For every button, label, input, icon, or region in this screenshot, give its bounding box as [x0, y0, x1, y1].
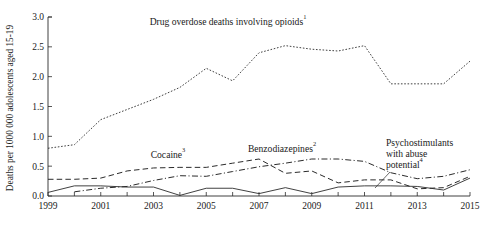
x-tick-label: 2015 [461, 201, 480, 211]
x-tick-label: 2005 [197, 201, 216, 211]
figure-container: 0.00.51.01.52.02.53.0 199920012003200520… [0, 0, 485, 232]
annotation-psychostimulants-line1: Psychostimulants [386, 137, 453, 148]
y-tick-labels: 0.00.51.01.52.02.53.0 [32, 12, 44, 201]
x-tick-label: 2013 [408, 201, 427, 211]
data-series [48, 46, 470, 196]
series-line [48, 46, 470, 149]
x-tick-label: 1999 [39, 201, 58, 211]
x-tick-label: 2011 [355, 201, 374, 211]
annotation-cocaine: Cocaine3 [151, 145, 186, 160]
annotation-opioids: Drug overdose deaths involving opioids1 [150, 12, 307, 27]
x-tick-label: 2003 [144, 201, 163, 211]
y-axis-label: Deaths per 1000 000 adolescents aged 15-… [5, 25, 15, 192]
y-tick-label: 3.0 [32, 12, 44, 22]
line-chart: 0.00.51.01.52.02.53.0 199920012003200520… [0, 0, 485, 232]
x-tick-label: 2009 [302, 201, 321, 211]
y-tick-label: 1.5 [32, 102, 44, 112]
y-tick-label: 2.0 [32, 72, 44, 82]
x-tick-label: 2007 [250, 201, 269, 211]
y-tick-label: 2.5 [32, 42, 44, 52]
y-tick-label: 1.0 [32, 132, 44, 142]
annotation-benzodiazepines: Benzodiazepines2 [248, 139, 316, 154]
x-tick-label: 2001 [91, 201, 110, 211]
series-annotations: Drug overdose deaths involving opioids1C… [150, 12, 454, 188]
y-tick-label: 0.5 [32, 162, 44, 172]
y-tick-label: 0.0 [32, 191, 44, 201]
x-tick-labels: 199920012003200520072009201120132015 [39, 201, 480, 211]
